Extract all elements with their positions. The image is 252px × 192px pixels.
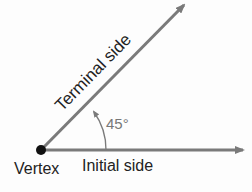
angle-svg: Terminal side Initial side Vertex 45° <box>0 0 252 192</box>
vertex-label: Vertex <box>14 160 59 177</box>
terminal-side-label: Terminal side <box>51 30 135 115</box>
angle-diagram: Terminal side Initial side Vertex 45° <box>0 0 252 192</box>
initial-side-label: Initial side <box>82 157 153 174</box>
angle-arc <box>94 112 106 150</box>
angle-measure-label: 45° <box>106 115 129 132</box>
vertex-point <box>36 145 46 155</box>
